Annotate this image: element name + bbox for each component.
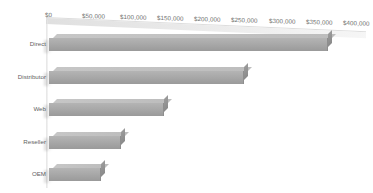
- bar-front-face: [49, 38, 328, 51]
- x-tick-label: $250,000: [231, 16, 258, 24]
- x-tick-label: $0: [45, 11, 52, 18]
- bar-end-face: [164, 95, 168, 112]
- x-tick-label: $200,000: [194, 15, 221, 23]
- x-tick-label: $150,000: [157, 14, 184, 22]
- x-tick-label: $300,000: [269, 17, 296, 25]
- x-tick-label: $100,000: [120, 13, 147, 21]
- category-axis-labels: DirectDistributorWebResellerOEM: [0, 0, 46, 193]
- bar-end-face: [101, 160, 105, 177]
- bar-end-face: [244, 63, 248, 80]
- bar: [49, 38, 328, 51]
- bar: [49, 136, 121, 149]
- bar: [49, 168, 101, 181]
- category-label: Reseller: [23, 138, 46, 145]
- x-tick-label: $50,000: [82, 12, 105, 20]
- bar-front-face: [49, 168, 101, 181]
- bar: [49, 71, 244, 84]
- bar-end-face: [121, 128, 125, 145]
- bar: [49, 103, 164, 116]
- bar-front-face: [49, 71, 244, 84]
- category-label: Distributor: [18, 73, 46, 80]
- bar-chart: $0$50,000$100,000$150,000$200,000$250,00…: [0, 0, 373, 193]
- bar-front-face: [49, 103, 164, 116]
- x-tick-label: $400,000: [343, 19, 370, 27]
- x-tick-label: $350,000: [306, 18, 333, 26]
- bar-front-face: [49, 136, 121, 149]
- bar-end-face: [328, 30, 332, 47]
